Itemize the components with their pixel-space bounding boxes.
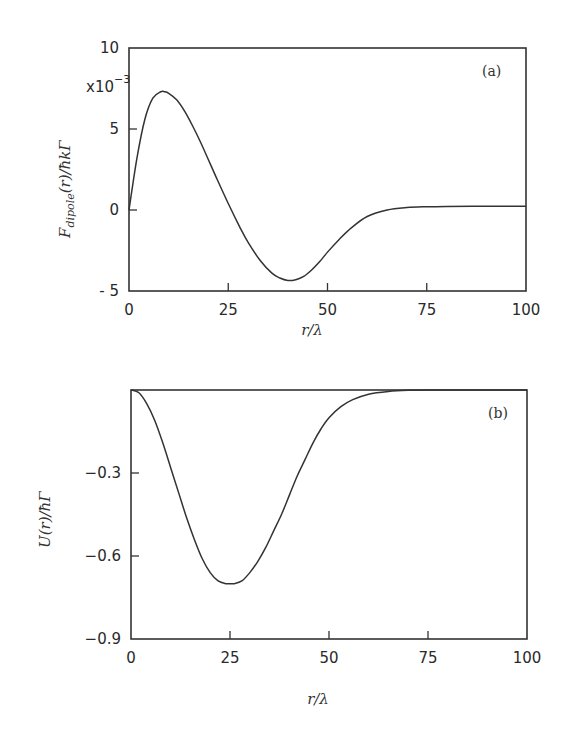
axis-ticks-a: 0255075100- 50510 xyxy=(99,39,540,319)
y-tick-label: 0 xyxy=(109,201,119,219)
x-axis-label-b: r/λ xyxy=(307,690,329,708)
panel-label-b: (b) xyxy=(488,405,508,421)
x-tick-label: 0 xyxy=(124,301,134,319)
x-tick-label: 0 xyxy=(126,649,136,667)
plot-frame-a xyxy=(129,48,526,291)
y-tick-label: 5 xyxy=(109,120,119,138)
y-axis-label-a: Fdipole(r)/ħkΓ xyxy=(56,140,77,239)
x-tick-label: 75 xyxy=(418,649,437,667)
y-tick-label: - 5 xyxy=(99,282,119,300)
x-tick-label: 100 xyxy=(513,649,542,667)
x-tick-label: 50 xyxy=(318,301,337,319)
plot-frame-b xyxy=(131,390,527,639)
potential-curve xyxy=(131,390,527,584)
y-tick-label: 10 xyxy=(100,39,119,57)
y-tick-label: −0.3 xyxy=(85,464,121,482)
x-tick-label: 25 xyxy=(219,301,238,319)
panel-label-a: (a) xyxy=(482,63,501,79)
y-axis-label-b: U(r)/ħΓ xyxy=(36,491,54,548)
x-tick-label: 50 xyxy=(319,649,338,667)
figure: 0255075100- 50510 (a) x10−3 Fdipole(r)/ħ… xyxy=(0,0,566,740)
y-tick-label: −0.6 xyxy=(85,547,121,565)
y-tick-label: −0.9 xyxy=(85,630,121,648)
x-axis-label-a: r/λ xyxy=(301,321,323,339)
x-tick-label: 75 xyxy=(417,301,436,319)
chart-panel-a: 0255075100- 50510 (a) x10−3 Fdipole(r)/ħ… xyxy=(56,39,540,339)
y-multiplier: x10−3 xyxy=(86,73,130,96)
x-tick-label: 25 xyxy=(220,649,239,667)
chart-panel-b: 0255075100−0.9−0.6−0.3 (b) U(r)/ħΓ r/λ xyxy=(36,390,541,708)
x-tick-label: 100 xyxy=(512,301,541,319)
axis-ticks-b: 0255075100−0.9−0.6−0.3 xyxy=(85,464,542,667)
force-curve xyxy=(129,91,526,280)
